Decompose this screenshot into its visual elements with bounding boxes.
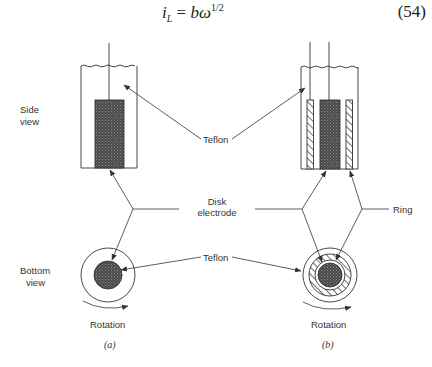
- ring-electrode-right-b: [346, 100, 353, 169]
- ring-arrow-side: [350, 171, 362, 209]
- teflon-bottom-arrow-b: [232, 257, 301, 271]
- panel-b-caption: (b): [322, 339, 334, 351]
- disk-arrow-b-bottom: [302, 209, 322, 262]
- panel-a-bottom-view: [81, 248, 135, 302]
- disk-electrode-label: Diskelectrode: [197, 196, 236, 218]
- panel-b-bottom-view: [303, 248, 357, 302]
- panel-a-caption: (a): [104, 339, 116, 351]
- panel-b-side-view: [301, 42, 358, 169]
- teflon-label-bottom: Teflon: [203, 252, 228, 263]
- ring-label: Ring: [393, 204, 413, 215]
- teflon-label-top: Teflon: [203, 134, 228, 145]
- teflon-top-arrow-b: [232, 88, 305, 139]
- teflon-bottom-arrow-a: [121, 257, 201, 270]
- disk-electrode-a: [95, 100, 124, 168]
- side-view-label: Sideview: [20, 104, 39, 127]
- rotating-electrode-diagram: Sideview Bottomview Teflon Teflon Diskel…: [0, 0, 432, 367]
- bottom-view-label: Bottomview: [20, 265, 50, 288]
- teflon-top-arrow-a: [124, 85, 201, 139]
- ring-arrow-bottom: [336, 209, 362, 260]
- disk-arrow-b-side: [302, 171, 326, 209]
- disk-face-a: [94, 261, 122, 289]
- rotation-label-a: Rotation: [90, 319, 125, 330]
- disk-face-b: [318, 263, 342, 287]
- rotation-arrow-b: [303, 302, 351, 309]
- disk-electrode-b: [320, 100, 340, 169]
- ring-electrode-left-b: [307, 100, 314, 169]
- disk-arrow-a-side: [110, 170, 133, 209]
- panel-a-side-view: [81, 43, 137, 168]
- rotation-label-b: Rotation: [311, 319, 346, 330]
